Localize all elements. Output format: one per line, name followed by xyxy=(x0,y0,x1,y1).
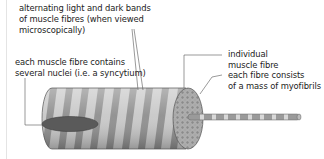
label-individual-fibre: individual muscle fibre xyxy=(228,49,278,71)
label-nuclei: each muscle fibre contains several nucle… xyxy=(15,57,146,79)
label-myofibrils: each fibre consists of a mass of myofibr… xyxy=(228,70,321,92)
nucleus xyxy=(42,117,98,132)
label-bands: alternating light and dark bands of musc… xyxy=(19,3,151,36)
myofibril xyxy=(188,114,301,120)
